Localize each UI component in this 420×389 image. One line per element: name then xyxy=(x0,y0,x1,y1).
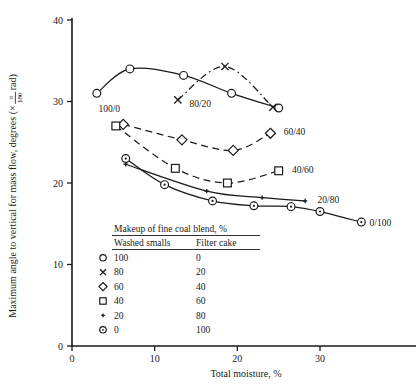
series-line xyxy=(116,126,279,183)
legend-row: 4060 xyxy=(100,296,206,306)
data-point-marker-circle xyxy=(93,89,101,97)
data-point-marker-plus xyxy=(205,189,209,193)
series-60-40 xyxy=(118,119,275,155)
data-point-marker-square xyxy=(171,164,179,172)
data-point-marker-diamond xyxy=(177,135,187,145)
legend-filter-cake-value: 20 xyxy=(196,267,206,277)
legend-column-header-filter-cake: Filter cake xyxy=(196,238,236,248)
data-point-marker-circle-dot xyxy=(250,202,258,210)
data-point-marker-circle-dot xyxy=(122,155,130,163)
legend-column-header-washed-smalls: Washed smalls xyxy=(114,238,171,248)
legend-row: 6040 xyxy=(99,282,206,292)
data-point-marker-diamond xyxy=(228,145,238,155)
legend-filter-cake-value: 60 xyxy=(196,296,206,306)
legend-washed-smalls-value: 0 xyxy=(114,325,119,335)
data-point-marker-square xyxy=(100,298,106,304)
data-point-marker-diamond xyxy=(99,283,107,291)
series-end-labels: 100/080/2060/4040/6020/800/100 xyxy=(98,99,391,227)
y-tick-label: 40 xyxy=(53,15,63,26)
x-axis-title: Total moisture, % xyxy=(210,368,281,379)
data-point-marker-circle-dot xyxy=(100,327,106,333)
data-point-marker-plus xyxy=(101,314,105,318)
data-point-marker-circle xyxy=(126,65,134,73)
axes xyxy=(72,18,416,346)
y-axis-title-fraction-numerator: π xyxy=(7,96,15,100)
y-axis-title-text: Maximum angle to vertical for mass flow,… xyxy=(7,74,19,318)
legend-row: 0100 xyxy=(100,325,211,335)
series-label-0-100: 0/100 xyxy=(370,218,392,228)
x-tick-label: 10 xyxy=(150,353,160,364)
line-chart: 0102030 010203040 Total moisture, % Maxi… xyxy=(0,0,420,389)
series-line xyxy=(123,124,270,150)
legend-title: Makeup of fine coal blend, % xyxy=(114,224,227,234)
data-point-marker-plus xyxy=(260,195,264,199)
legend-washed-smalls-value: 20 xyxy=(114,311,124,321)
legend-filter-cake-value: 100 xyxy=(196,325,211,335)
data-point-marker-circle xyxy=(228,89,236,97)
data-point-marker-circle xyxy=(180,72,188,80)
y-tick-label: 10 xyxy=(53,259,63,270)
y-tick-label: 30 xyxy=(53,96,63,107)
data-point-marker-square xyxy=(224,179,232,187)
data-point-marker-circle xyxy=(100,255,106,261)
data-point-marker-x xyxy=(100,269,106,275)
series-line xyxy=(126,159,362,223)
series-label-100-0: 100/0 xyxy=(98,104,120,114)
legend-filter-cake-value: 0 xyxy=(196,253,201,263)
legend-filter-cake-value: 40 xyxy=(196,282,206,292)
x-tick-label: 30 xyxy=(315,353,325,364)
y-axis-ticks: 010203040 xyxy=(53,15,72,352)
data-point-marker-circle-dot xyxy=(287,203,295,211)
series-label-80-20: 80/20 xyxy=(189,99,211,109)
series-label-60-40: 60/40 xyxy=(284,127,306,137)
y-axis-title: Maximum angle to vertical for mass flow,… xyxy=(7,74,24,318)
y-tick-label: 20 xyxy=(53,178,63,189)
series-label-40-60: 40/60 xyxy=(292,165,314,175)
data-point-marker-x xyxy=(221,63,228,70)
data-point-marker-circle-dot xyxy=(209,197,217,205)
data-point-marker-circle-dot xyxy=(357,218,365,226)
legend-filter-cake-value: 80 xyxy=(196,311,206,321)
data-point-marker-x xyxy=(174,96,181,103)
chart-root: 0102030 010203040 Total moisture, % Maxi… xyxy=(0,0,420,389)
data-point-marker-diamond xyxy=(265,128,275,138)
x-tick-label: 20 xyxy=(232,353,242,364)
series-label-20-80: 20/80 xyxy=(318,195,340,205)
data-point-marker-square xyxy=(275,167,283,175)
legend-row: 1000 xyxy=(100,253,201,263)
y-axis-title-fraction-denominator: 180 xyxy=(16,92,24,103)
legend-washed-smalls-value: 80 xyxy=(114,267,124,277)
legend-washed-smalls-value: 40 xyxy=(114,296,124,306)
y-tick-label: 0 xyxy=(58,341,63,352)
data-point-marker-circle-dot xyxy=(316,208,324,216)
series-0-100 xyxy=(122,155,365,226)
legend-washed-smalls-value: 100 xyxy=(114,253,129,263)
data-point-marker-circle-dot xyxy=(161,181,169,189)
legend-row: 8020 xyxy=(100,267,206,277)
x-tick-label: 0 xyxy=(70,353,75,364)
x-axis-ticks: 0102030 xyxy=(70,346,326,364)
series-40-60 xyxy=(112,122,283,187)
data-point-marker-plus xyxy=(303,199,307,203)
series-100-0 xyxy=(93,65,283,112)
legend-row: 2080 xyxy=(101,311,206,321)
legend-washed-smalls-value: 60 xyxy=(114,282,124,292)
data-point-marker-square xyxy=(112,122,120,130)
chart-legend: Makeup of fine coal blend, %Washed small… xyxy=(99,224,260,335)
